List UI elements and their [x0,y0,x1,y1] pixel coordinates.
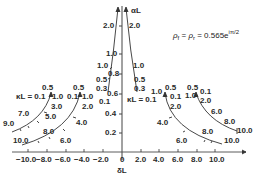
curve-label: 0.5 [134,76,145,84]
curve-label: 10.0 [13,137,29,145]
curve-label: 0.1 [200,88,211,96]
x-tick-label: −6.0 [55,156,71,164]
y-axis-label: αL [131,7,141,15]
x-tick-label: 2.0 [135,156,146,164]
x-tick-label: −8.0 [36,156,52,164]
x-tick-label: 8.0 [191,156,202,164]
curve-label: 0.3 [96,85,107,93]
curve-label: 2.0 [129,22,140,30]
curve-label: 0.5 [73,84,84,92]
curve-label: 4.0 [157,119,168,127]
x-tick-label: 10.0 [209,156,225,164]
curve-label: 0.1 [99,98,110,106]
curve-label: 1.0 [133,62,144,70]
y-axis [119,6,122,160]
kl-label: κL = 0.1 [127,96,156,104]
y-tick-label: 0.4 [105,110,116,118]
curve-label: 2.0 [170,103,181,111]
formula-exponent: iπ/2 [229,29,239,35]
curve-label: 8.0 [224,118,235,126]
curve-label: 0.1 [67,93,78,101]
curve-label: 0.5 [96,76,107,84]
x-tick-label: 6.0 [172,156,183,164]
x-tick-label: 4.0 [153,156,164,164]
curve-label: 9.0 [3,120,14,128]
x-axis [12,149,246,154]
curve-label: 0.3 [134,85,145,93]
curve-label: 4.0 [76,119,87,127]
curve-label: 5.0 [45,113,56,121]
curve-label: 1.0 [97,62,108,70]
curve-label: 2.0 [200,97,211,105]
curve-label: 8.0 [202,128,213,136]
x-axis-label: δL [117,167,127,175]
y-tick-label: 2.0 [103,22,114,30]
curve-label: 1.0 [185,92,196,100]
curve-label: 0.5 [42,84,53,92]
x-tick-label: −10.0 [16,156,36,164]
curve-label: 6.0 [60,137,71,145]
curve-label: 1.0 [82,93,93,101]
curve-label: 3.0 [51,103,62,111]
curve-label: 8.0 [43,128,54,136]
kl-label: κL = 0.1 [16,93,45,101]
y-tick-label: 0.2 [105,129,116,137]
curve-label: 7.0 [18,110,29,118]
curve-label: 10.0 [224,137,240,145]
curve-label: 1.0 [151,88,162,96]
y-tick-label: 1.0 [106,50,117,58]
formula-value: = 0.565e [195,31,229,40]
x-tick-label: −4.0 [74,156,90,164]
formula: ρf = ρr = 0.565eiπ/2 [173,29,239,41]
curve-label: 2.0 [82,103,93,111]
x-tick-label: 0 [120,156,124,164]
y-tick-label: 0.8 [108,70,119,78]
curve-label: 6.0 [176,137,187,145]
curve-label: 10.0 [237,127,253,135]
curve-label: 1.0 [52,93,63,101]
curve-label: 0.5 [165,84,176,92]
curve-label: 0.1 [170,93,181,101]
curve-label: 6.0 [211,108,222,116]
x-tick-label: −2.0 [93,156,109,164]
